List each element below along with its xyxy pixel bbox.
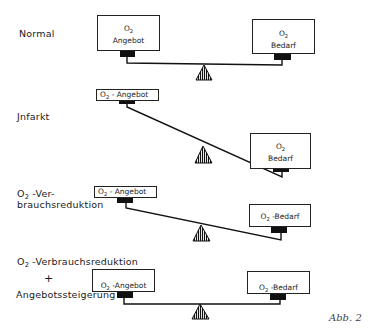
o2-angebot-box: O2 Angebot xyxy=(97,15,160,51)
o2-angebot-box: O2 - Angebot xyxy=(94,186,157,198)
weight-pad xyxy=(270,294,286,300)
scenario-label-normal: Normal xyxy=(19,29,55,39)
figure-caption: Abb. 2 xyxy=(329,312,362,323)
plus-sign: + xyxy=(44,274,53,284)
o2-bedarf-box: O2 -Bedarf xyxy=(249,204,311,227)
o2-bedarf-box: O2 Bedarf xyxy=(252,19,315,54)
weight-pad xyxy=(271,227,287,233)
fulcrum-icon xyxy=(192,304,209,319)
o2-angebot-box: O2 -Angebot xyxy=(92,269,155,292)
balance-diagram xyxy=(0,0,379,336)
scenario-label-reduktion-line2: brauchsreduktion xyxy=(17,200,103,210)
o2-angebot-box: O2 - Angebot xyxy=(96,89,159,101)
scenario-label-infarkt: Jnfarkt xyxy=(17,112,50,122)
balance-normal xyxy=(120,51,291,80)
o2-bedarf-box: O2 -Bedarf xyxy=(247,271,310,294)
weight-pad xyxy=(117,292,133,298)
weight-pad xyxy=(120,51,135,57)
fulcrum-icon xyxy=(193,225,210,241)
fulcrum-icon xyxy=(196,65,212,80)
fulcrum-icon xyxy=(195,146,212,163)
weight-pad xyxy=(274,54,291,60)
balance-combined xyxy=(117,292,286,319)
o2-bedarf-box: O2 Bedarf xyxy=(250,133,311,169)
